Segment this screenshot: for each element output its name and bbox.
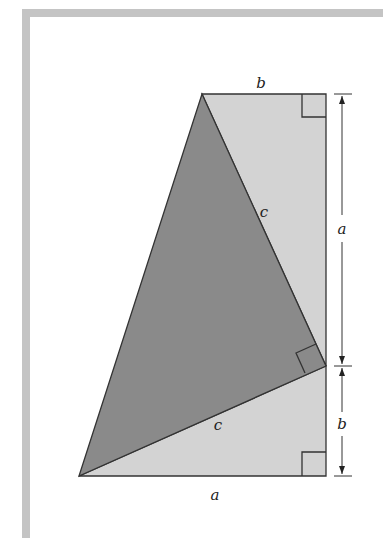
label-hyp-lower-c: c (214, 416, 223, 434)
arrow-down-icon (339, 466, 345, 474)
label-right-a: a (338, 220, 347, 238)
pythagorean-diagram: b a b a c c (0, 0, 383, 538)
arrow-up-icon (339, 96, 345, 104)
label-right-b: b (337, 415, 347, 433)
arrow-down-icon (339, 356, 345, 364)
label-top-b: b (256, 74, 266, 92)
label-hyp-upper-c: c (260, 203, 269, 221)
label-bottom-a: a (211, 486, 220, 504)
arrow-up-icon (339, 368, 345, 376)
